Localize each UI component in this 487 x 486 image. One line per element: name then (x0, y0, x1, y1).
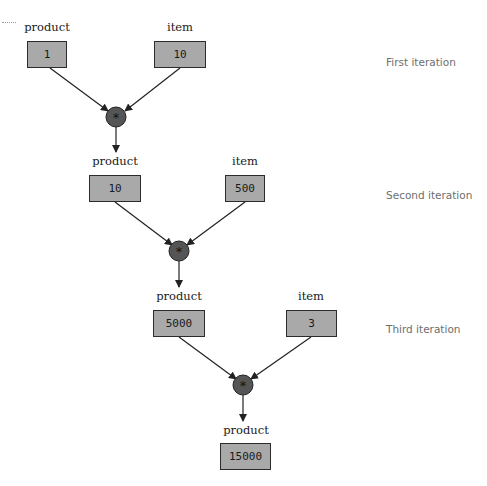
final-product-value-box: 15000 (220, 443, 271, 470)
iteration-label-3: Third iteration (386, 323, 460, 335)
asterisk-icon: * (176, 244, 183, 259)
iteration-label-1: First iteration (386, 56, 456, 68)
arrow-product-3 (179, 337, 236, 379)
product-value-box-2: 10 (89, 175, 141, 202)
product-value-box-1: 1 (27, 41, 67, 68)
item-label-1: item (167, 20, 193, 34)
arrow-item-1 (125, 68, 180, 111)
item-value-box-2: 500 (225, 175, 265, 202)
arrow-item-2 (187, 202, 245, 245)
item-value-box-3: 3 (286, 310, 337, 337)
arrow-product-1 (50, 68, 108, 111)
asterisk-icon: * (113, 110, 120, 125)
iteration-label-2: Second iteration (386, 189, 472, 201)
arrow-item-3 (251, 337, 311, 379)
product-value-box-3: 5000 (153, 310, 205, 337)
final-product-label: product (223, 423, 269, 437)
asterisk-icon: * (240, 378, 247, 393)
product-label-1: product (24, 20, 70, 34)
product-label-3: product (156, 289, 202, 303)
item-value-box-1: 10 (154, 41, 206, 68)
arrows-layer: * * * (0, 0, 487, 486)
item-label-2: item (232, 154, 258, 168)
arrow-product-2 (115, 202, 172, 245)
item-label-3: item (298, 289, 324, 303)
iteration-diagram: * * * product 1 item 10 First iteration … (0, 0, 487, 486)
product-label-2: product (92, 154, 138, 168)
